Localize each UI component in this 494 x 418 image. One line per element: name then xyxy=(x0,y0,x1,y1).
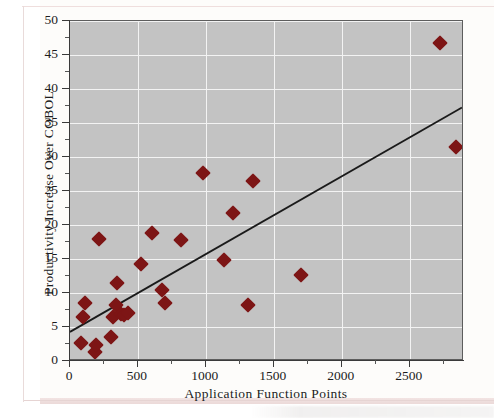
gridline-horizontal xyxy=(70,259,462,260)
gridline-vertical xyxy=(274,21,275,359)
y-tick-major xyxy=(62,54,69,55)
x-axis-line xyxy=(69,360,464,361)
x-tick-major xyxy=(69,360,70,367)
x-tick-label: 1000 xyxy=(180,368,230,384)
x-tick-minor xyxy=(103,360,104,364)
y-tick-label: 45 xyxy=(30,46,58,62)
y-tick-minor xyxy=(65,105,69,106)
y-tick-major xyxy=(62,292,69,293)
y-axis-line xyxy=(69,20,70,361)
y-tick-label: 50 xyxy=(30,12,58,28)
gridline-horizontal xyxy=(70,89,462,90)
gridline-vertical xyxy=(138,21,139,359)
gridline-horizontal xyxy=(70,191,462,192)
gridline-horizontal xyxy=(70,157,462,158)
scatter-chart-figure: 05101520253035404550 0500100015002000250… xyxy=(0,0,494,404)
gridline-horizontal xyxy=(70,55,462,56)
y-tick-major xyxy=(62,88,69,89)
x-tick-label: 2500 xyxy=(384,368,434,384)
y-tick-major xyxy=(62,224,69,225)
y-tick-major xyxy=(62,360,69,361)
gridline-vertical xyxy=(410,21,411,359)
y-tick-major xyxy=(62,122,69,123)
data-point xyxy=(448,139,463,155)
caption-text-smudge xyxy=(250,406,494,418)
x-tick-minor xyxy=(375,360,376,364)
data-point xyxy=(293,268,309,284)
data-point xyxy=(91,231,107,247)
x-tick-major xyxy=(205,360,206,367)
x-tick-minor xyxy=(307,360,308,364)
x-tick-minor xyxy=(171,360,172,364)
plot-area xyxy=(69,20,463,360)
y-tick-major xyxy=(62,20,69,21)
gridline-horizontal xyxy=(70,293,462,294)
y-tick-major xyxy=(62,258,69,259)
x-tick-label: 2000 xyxy=(316,368,366,384)
data-point xyxy=(109,276,125,292)
x-tick-minor xyxy=(443,360,444,364)
y-tick-minor xyxy=(65,173,69,174)
y-tick-minor xyxy=(65,71,69,72)
data-point xyxy=(174,232,190,248)
data-point xyxy=(240,297,256,313)
data-point xyxy=(157,295,173,311)
data-point xyxy=(103,329,119,345)
x-tick-major xyxy=(409,360,410,367)
y-tick-minor xyxy=(65,275,69,276)
data-point xyxy=(73,336,89,352)
data-point xyxy=(216,252,232,268)
gridline-horizontal xyxy=(70,123,462,124)
y-tick-minor xyxy=(65,309,69,310)
x-tick-major xyxy=(273,360,274,367)
y-tick-minor xyxy=(65,241,69,242)
data-point xyxy=(195,166,211,182)
y-axis-title: Productivity Increase Over COBOL xyxy=(41,63,57,323)
x-axis-title: Application Function Points xyxy=(69,386,463,402)
y-tick-major xyxy=(62,326,69,327)
y-tick-major xyxy=(62,156,69,157)
data-point xyxy=(246,174,262,190)
data-point xyxy=(75,309,91,325)
y-tick-minor xyxy=(65,207,69,208)
x-tick-minor xyxy=(239,360,240,364)
y-tick-minor xyxy=(65,37,69,38)
data-point xyxy=(144,225,160,241)
x-tick-major xyxy=(341,360,342,367)
y-tick-minor xyxy=(65,139,69,140)
data-point xyxy=(77,295,93,311)
y-tick-major xyxy=(62,190,69,191)
gridline-horizontal xyxy=(70,327,462,328)
gridline-horizontal xyxy=(70,225,462,226)
data-point xyxy=(155,282,171,298)
data-point xyxy=(432,35,448,51)
y-tick-label: 0 xyxy=(30,352,58,368)
gridline-horizontal xyxy=(70,21,462,22)
gridline-vertical xyxy=(206,21,207,359)
x-tick-label: 500 xyxy=(112,368,162,384)
data-point xyxy=(225,206,241,222)
y-tick-minor xyxy=(65,343,69,344)
scanned-page: 05101520253035404550 0500100015002000250… xyxy=(0,0,494,418)
x-tick-label: 1500 xyxy=(248,368,298,384)
x-tick-major xyxy=(137,360,138,367)
gridline-vertical xyxy=(342,21,343,359)
x-tick-label: 0 xyxy=(44,368,94,384)
